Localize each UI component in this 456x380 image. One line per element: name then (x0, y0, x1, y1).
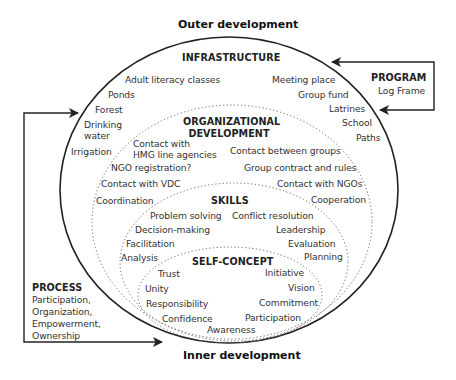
organizational-heading-line1: ORGANIZATIONAL (183, 116, 275, 127)
skills-item: Decision-making (135, 224, 210, 235)
skills-item: Conflict resolution (232, 210, 313, 221)
skills-item: Leadership (276, 224, 326, 235)
self-concept-item: Awareness (207, 324, 255, 335)
organizational-heading-line2: DEVELOPMENT (183, 128, 275, 139)
self-concept-item: Trust (158, 268, 180, 279)
process-heading: PROCESS (32, 282, 82, 293)
skills-item: Evaluation (288, 238, 335, 249)
organizational-item: Contact with NGOs (277, 178, 362, 189)
self-concept-item: Vision (288, 282, 315, 293)
skills-heading: SKILLS (211, 195, 249, 206)
infrastructure-item: Forest (95, 104, 123, 115)
self-concept-item: Responsibility (146, 298, 208, 309)
process-arrow-top (24, 113, 78, 200)
organizational-item: Contact with (133, 138, 190, 149)
infrastructure-item: Irrigation (71, 146, 112, 157)
program-text: Log Frame (378, 85, 425, 96)
self-concept-item: Initiative (265, 267, 304, 278)
self-concept-item: Participation (245, 312, 301, 323)
organizational-item: Contact between groups (230, 145, 341, 156)
infrastructure-item: Adult literacy classes (125, 74, 220, 85)
infrastructure-item: Paths (356, 132, 380, 143)
organizational-item: NGO registration? (111, 162, 191, 173)
infrastructure-item: Group fund (298, 89, 349, 100)
process-line: Ownership (32, 330, 80, 341)
organizational-item: Coordination (96, 195, 154, 206)
infrastructure-item: Meeting place (272, 74, 335, 85)
self-concept-item: Commitment (259, 297, 318, 308)
outer-development-circle (60, 37, 398, 343)
process-line: Empowerment, (32, 318, 101, 329)
skills-item: Planning (304, 251, 343, 262)
skills-item: Facilitation (126, 238, 174, 249)
skills-item: Problem solving (150, 210, 222, 221)
organizational-item: Contact with VDC (101, 178, 180, 189)
infrastructure-heading: INFRASTRUCTURE (182, 52, 280, 63)
organizational-item: Group contract and rules (244, 162, 356, 173)
organizational-item: HMG line agencies (133, 149, 217, 160)
infrastructure-item: Drinking (84, 119, 122, 130)
self-concept-item: Unity (145, 283, 169, 294)
inner-development-title: Inner development (183, 349, 301, 362)
infrastructure-item: Ponds (108, 89, 135, 100)
outer-development-title: Outer development (178, 18, 298, 31)
infrastructure-item: water (84, 130, 110, 141)
organizational-item: Cooperation (311, 194, 366, 205)
process-line: Participation, (32, 294, 91, 305)
self-concept-heading: SELF-CONCEPT (192, 256, 273, 267)
infrastructure-item: School (342, 117, 372, 128)
skills-item: Analysis (121, 252, 158, 263)
process-line: Organization, (32, 306, 92, 317)
infrastructure-item: Latrines (329, 103, 365, 114)
program-heading: PROGRAM (371, 72, 427, 83)
self-concept-item: Confidence (162, 313, 213, 324)
